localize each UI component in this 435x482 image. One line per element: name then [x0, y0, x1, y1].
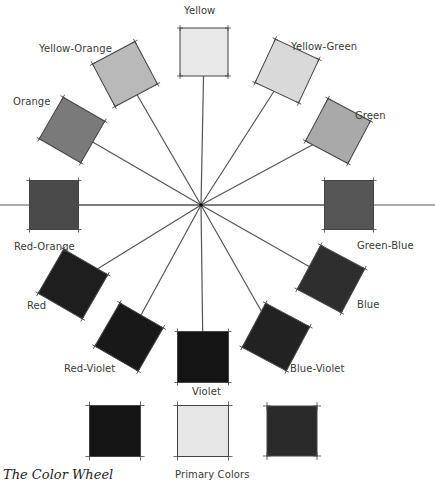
- label-red-orange: Red-Orange: [14, 241, 75, 252]
- label-blue-violet: Blue-Violet: [290, 363, 345, 374]
- label-orange: Orange: [13, 96, 51, 107]
- swatch-red-orange: [27, 178, 82, 233]
- swatch-yellow: [177, 25, 231, 79]
- label-primary-colors: Primary Colors: [175, 469, 250, 480]
- label-yellow-green: Yellow-Green: [291, 41, 357, 52]
- primary-swatch: [86, 402, 145, 461]
- primary-swatch: [263, 402, 321, 460]
- swatch-violet: [175, 329, 232, 386]
- label-blue: Blue: [357, 299, 380, 310]
- label-violet: Violet: [192, 386, 221, 397]
- swatch-red: [34, 245, 112, 323]
- center-point: [199, 203, 203, 207]
- label-green: Green: [355, 110, 386, 121]
- label-yellow-orange: Yellow-Orange: [39, 43, 112, 54]
- label-red: Red: [27, 300, 46, 311]
- label-red-violet: Red-Violet: [64, 363, 115, 374]
- diagram-caption: The Color Wheel: [3, 467, 113, 482]
- primary-swatches: [86, 402, 322, 461]
- primary-swatch: [174, 402, 233, 461]
- label-yellow: Yellow: [184, 5, 215, 16]
- swatch-green-blue: [322, 178, 377, 233]
- label-green-blue: Green-Blue: [357, 240, 414, 251]
- swatch-green: [301, 94, 374, 167]
